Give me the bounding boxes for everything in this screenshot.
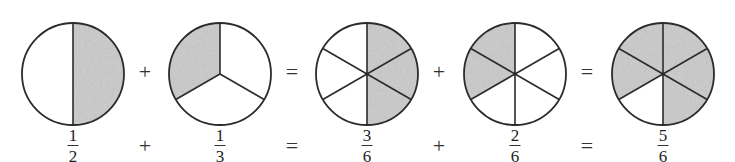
plus-sign: + [139,61,151,83]
pie-two-sixths [464,23,566,125]
divider-line [323,49,367,75]
divider-line [515,49,559,75]
numerator: 1 [215,127,226,145]
fraction-one-half: 12 [68,127,79,162]
divider-line [323,74,367,100]
numerator: 3 [362,127,373,145]
fraction-three-sixths: 36 [362,127,373,162]
numerator: 1 [68,127,79,145]
fraction-five-sixths: 56 [658,127,669,162]
numerator: 5 [658,127,669,145]
pie-one-half [22,23,124,125]
equals-sign: = [581,61,593,83]
denominator: 6 [659,146,668,162]
center-dot [365,72,368,75]
fraction-one-third: 13 [215,127,226,162]
plus-sign: + [433,135,445,157]
shaded-sector [73,23,124,125]
pie-three-sixths [316,23,418,125]
divider-line [220,74,264,100]
divider-line [515,74,559,100]
plus-sign: + [139,135,151,157]
center-dot [661,72,664,75]
denominator: 6 [363,146,372,162]
shaded-sector [663,23,714,125]
numerator: 2 [510,127,521,145]
plus-sign: + [433,61,445,83]
shaded-sector [367,23,418,125]
fraction-two-sixths: 26 [510,127,521,162]
denominator: 3 [216,146,225,162]
denominator: 2 [69,146,78,162]
equals-sign: = [286,135,298,157]
denominator: 6 [511,146,520,162]
pie-five-sixths [612,23,714,125]
equals-sign: = [286,61,298,83]
fraction-diagram: +=+= +=+= 1213362656 [0,0,735,162]
equals-sign: = [581,135,593,157]
center-dot [513,72,516,75]
pie-one-third [169,23,271,125]
